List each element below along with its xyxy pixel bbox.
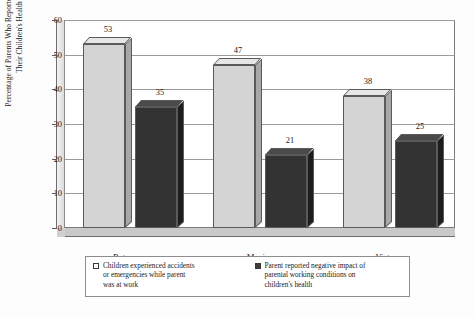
plot-area: 0102030405060 533547213825 BotswanaMexic… (65, 20, 455, 228)
bar-front-face (213, 65, 255, 228)
bar-side-face (177, 100, 184, 228)
bar-value-label: 53 (104, 25, 112, 34)
chart-legend: Children experienced accidentsor emergen… (85, 256, 410, 297)
y-tick-mark (52, 89, 57, 90)
legend-item: Children experienced accidentsor emergen… (86, 257, 248, 296)
bar-value-label: 25 (416, 122, 424, 131)
legend-label-line: or emergencies while parent (103, 270, 195, 279)
legend-label: Children experienced accidentsor emergen… (103, 261, 195, 289)
legend-swatch-icon (255, 263, 261, 269)
bar-side-face (125, 38, 132, 228)
legend-label: Parent reported negative impact ofparent… (265, 261, 366, 289)
chart-figure: Percentage of Parents Who Reported Risks… (0, 0, 474, 318)
bar-front-face (395, 141, 437, 228)
bar-value-label: 47 (234, 46, 242, 55)
bar-front-face (343, 96, 385, 228)
legend-label-line: parental working conditions on (265, 270, 366, 279)
bar (395, 141, 437, 228)
bar (213, 65, 255, 228)
bar-top-face (83, 37, 131, 44)
legend-item: Parent reported negative impact ofparent… (248, 257, 410, 296)
y-tick-mark (52, 228, 57, 229)
legend-label-line: Children experienced accidents (103, 261, 195, 270)
bar-front-face (83, 44, 125, 228)
y-axis-title-line-1: Percentage of Parents Who Reported Risks… (4, 0, 15, 142)
bar-top-face (343, 89, 391, 96)
bar-side-face (437, 135, 444, 228)
bar-top-face (265, 148, 313, 155)
y-axis-title-line-2: Their Children's Health (15, 0, 26, 142)
bar-top-face (135, 100, 183, 107)
bar-top-face (395, 134, 443, 141)
bar-value-label: 38 (364, 77, 372, 86)
bar-side-face (385, 90, 392, 228)
bar-front-face (135, 107, 177, 228)
bar (135, 107, 177, 228)
plot-floor (65, 228, 455, 237)
legend-label-line: children's health (265, 280, 366, 289)
bar (265, 155, 307, 228)
bar-value-label: 21 (286, 136, 294, 145)
bar-top-face (213, 58, 261, 65)
legend-label-line: Parent reported negative impact of (265, 261, 366, 270)
legend-swatch-icon (93, 263, 99, 269)
legend-label-line: was at work (103, 280, 195, 289)
bar (343, 96, 385, 228)
bar-side-face (255, 59, 262, 228)
y-axis-title: Percentage of Parents Who Reported Risks… (4, 0, 34, 142)
bar-front-face (265, 155, 307, 228)
y-tick-mark (52, 55, 57, 56)
y-tick-mark (52, 193, 57, 194)
y-tick-label: 0 (58, 224, 62, 233)
y-tick-mark (52, 124, 57, 125)
gridline (65, 20, 455, 21)
y-tick-mark (52, 20, 57, 21)
bar-value-label: 35 (156, 88, 164, 97)
bar-side-face (307, 149, 314, 228)
y-tick-mark (52, 159, 57, 160)
bar (83, 44, 125, 228)
